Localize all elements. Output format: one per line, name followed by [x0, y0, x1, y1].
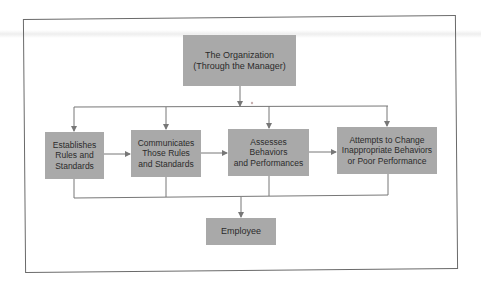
step-box-establishes-rules: Establishes Rules and Standards [45, 132, 104, 179]
organization-box: The Organization (Through the Manager) [183, 35, 296, 86]
employee-box: Employee [206, 218, 276, 245]
bottom-bus-line [74, 195, 388, 198]
step-label: Assesses Behaviors and Performances [234, 137, 303, 169]
organization-label: The Organization (Through the Manager) [193, 50, 286, 72]
scan-speck [251, 102, 253, 104]
employee-label: Employee [221, 226, 261, 237]
step-label: Communicates Those Rules and Standards [138, 138, 195, 170]
step-label: Establishes Rules and Standards [53, 140, 96, 172]
step-label: Attempts to Change Inappropriate Behavio… [342, 135, 432, 167]
step-box-assesses-behaviors: Assesses Behaviors and Performances [228, 129, 309, 176]
top-bus-line [74, 106, 388, 107]
step-box-attempts-to-change: Attempts to Change Inappropriate Behavio… [337, 127, 437, 174]
step-box-communicates-rules: Communicates Those Rules and Standards [131, 130, 201, 177]
